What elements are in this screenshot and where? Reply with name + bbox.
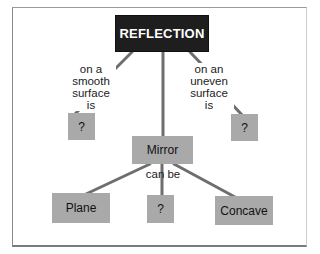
node-plane: Plane xyxy=(52,193,110,223)
link-label-line: is xyxy=(66,99,116,111)
link-label-smooth: on a smooth surface is xyxy=(66,63,116,111)
link-label-line: on a xyxy=(66,63,116,75)
node-mirror: Mirror xyxy=(132,136,193,164)
link-label-line: uneven xyxy=(184,75,234,87)
link-label-line: is xyxy=(184,99,234,111)
link-label-line: surface xyxy=(184,87,234,99)
link-label-line: smooth xyxy=(66,75,116,87)
node-smooth-answer: ? xyxy=(68,113,95,140)
node-uneven-answer: ? xyxy=(231,114,258,141)
link-label-can-be: can be xyxy=(141,168,185,180)
node-concave: Concave xyxy=(215,196,273,225)
link-label-uneven: on an uneven surface is xyxy=(184,63,234,111)
root-node-reflection: REFLECTION xyxy=(115,15,209,52)
link-label-line: surface xyxy=(66,87,116,99)
link-label-line: on an xyxy=(184,63,234,75)
node-middle-answer: ? xyxy=(147,195,174,223)
